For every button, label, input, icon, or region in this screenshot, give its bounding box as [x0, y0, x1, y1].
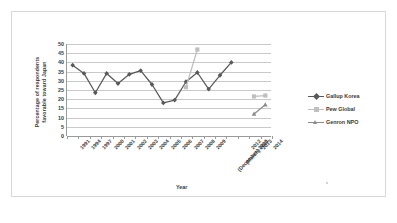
- x-tick-label: 2005: [169, 138, 181, 151]
- legend-item[interactable]: Genron NPO: [308, 116, 382, 129]
- y-tick-label: 40: [58, 59, 67, 65]
- y-tick-label: 10: [58, 115, 67, 121]
- y-tick-label: 45: [58, 50, 67, 56]
- data-point-marker: [252, 94, 256, 98]
- x-tick-label: 2009: [215, 138, 227, 151]
- chart-legend: Gallup KoreaPew GlobalGenron NPO: [308, 90, 382, 129]
- legend-swatch-icon: [308, 118, 324, 127]
- data-point-marker: [263, 102, 268, 106]
- x-axis-title: Year: [176, 184, 187, 190]
- legend-label: Gallup Korea: [326, 94, 360, 99]
- series-line: [186, 50, 197, 88]
- legend-label: Genron NPO: [326, 120, 358, 125]
- y-tick-label: 20: [58, 96, 67, 102]
- plot-area: 05101520253035404550: [66, 44, 271, 136]
- legend-item[interactable]: Pew Global: [308, 103, 382, 116]
- y-axis-title-line-2: favorable toward Japan: [41, 61, 48, 122]
- x-tick-label: 1991: [78, 138, 90, 151]
- data-point-marker: [184, 85, 188, 89]
- series-gallup-korea: [70, 60, 233, 105]
- series-data-layer: [67, 44, 271, 136]
- legend-swatch-icon: [308, 105, 324, 114]
- x-tick-label: 2006: [181, 138, 193, 151]
- x-tick-label: 2004: [158, 138, 170, 151]
- x-tick-labels: 1991199419972000200120022003200420052006…: [66, 138, 296, 208]
- x-tick-label: 2002: [135, 138, 147, 151]
- y-tick-label: 15: [58, 105, 67, 111]
- x-tick-label: 2008: [204, 138, 216, 151]
- x-tick-label: 2000: [113, 138, 125, 151]
- chart-figure: Percentage of respondents favorable towa…: [0, 0, 397, 223]
- x-tick-label: 2003: [147, 138, 159, 151]
- x-tick-label: 2001: [124, 138, 136, 151]
- data-point-marker: [195, 47, 199, 51]
- page-speck: [326, 182, 328, 184]
- y-tick-label: 25: [58, 87, 67, 93]
- y-axis-title: Percentage of respondents favorable towa…: [30, 38, 52, 146]
- y-axis-title-line-1: Percentage of respondents: [34, 57, 41, 128]
- legend-item[interactable]: Gallup Korea: [308, 90, 382, 103]
- y-tick-label: 50: [58, 41, 67, 47]
- x-tick-label: 1994: [90, 138, 102, 151]
- y-tick-label: 35: [58, 69, 67, 75]
- x-tick-label: 1997: [101, 138, 113, 151]
- legend-swatch-icon: [308, 92, 324, 101]
- x-tick-label: 2007: [192, 138, 204, 151]
- y-tick-label: 30: [58, 78, 67, 84]
- legend-label: Pew Global: [326, 107, 355, 112]
- series-genron-npo: [252, 102, 268, 116]
- data-point-marker: [263, 93, 267, 97]
- x-tick-label: 2014: [272, 138, 284, 151]
